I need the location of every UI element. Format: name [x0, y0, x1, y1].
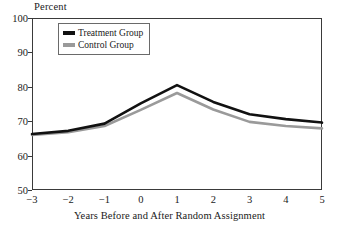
line-chart: Percent 5060708090100 −3−2−1012345 Treat…: [0, 0, 339, 231]
legend-label-treatment: Treatment Group: [78, 27, 143, 39]
x-axis-title: Years Before and After Random Assignment: [0, 210, 339, 221]
legend-swatch-treatment: [63, 31, 75, 35]
x-tick-label: 5: [319, 190, 324, 205]
legend-item-treatment: Treatment Group: [63, 27, 143, 39]
legend: Treatment Group Control Group: [58, 23, 150, 55]
x-tick-label: 4: [283, 190, 288, 205]
x-tick-label: 3: [247, 190, 252, 205]
y-axis-title: Percent: [34, 1, 67, 12]
legend-swatch-control: [63, 43, 75, 47]
x-tick-label: 1: [174, 190, 179, 205]
plot-area: 5060708090100 −3−2−1012345 Treatment Gro…: [32, 18, 322, 190]
legend-item-control: Control Group: [63, 39, 143, 51]
x-tick-label: 2: [211, 190, 216, 205]
x-tick-label: −2: [63, 190, 74, 205]
x-tick-label: 0: [138, 190, 143, 205]
x-tick-label: −3: [26, 190, 37, 205]
legend-label-control: Control Group: [78, 39, 134, 51]
x-tick-label: −1: [99, 190, 110, 205]
